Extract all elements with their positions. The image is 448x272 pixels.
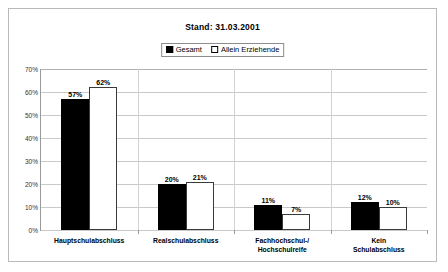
y-axis-tick-label: 0% bbox=[29, 227, 38, 234]
bar-value-label: 12% bbox=[358, 194, 372, 201]
plot-area: 0%10%20%30%40%50%60%70%57%62%Hauptschula… bbox=[40, 69, 427, 231]
y-axis-tick-label: 20% bbox=[25, 181, 38, 188]
legend-label-allein-erziehende: Allein Erziehende bbox=[221, 45, 279, 54]
legend-swatch-filled-icon bbox=[166, 46, 173, 53]
bar-value-label: 20% bbox=[165, 176, 179, 183]
y-axis-tick-label: 40% bbox=[25, 135, 38, 142]
bar-allein-erziehende: 21% bbox=[186, 182, 214, 230]
bar-value-label: 57% bbox=[68, 91, 82, 98]
bar-allein-erziehende: 7% bbox=[282, 214, 310, 230]
y-axis-tick-label: 70% bbox=[25, 66, 38, 73]
x-axis-category-label: Realschulabschluss bbox=[153, 236, 218, 245]
bar-gesamt: 20% bbox=[158, 184, 186, 230]
x-axis-category-label: Kein Schulabschluss bbox=[353, 236, 405, 254]
bar-value-label: 7% bbox=[291, 206, 301, 213]
x-axis-tick bbox=[138, 230, 139, 234]
bar-gesamt: 57% bbox=[61, 99, 89, 230]
chart-frame: Stand: 31.03.2001 Gesamt Allein Erziehen… bbox=[8, 8, 437, 262]
bar-value-label: 21% bbox=[193, 174, 207, 181]
x-axis-category-label: Fachhochschul-/ Hochschulreife bbox=[255, 236, 309, 254]
chart-legend: Gesamt Allein Erziehende bbox=[161, 43, 285, 57]
y-axis-tick-label: 60% bbox=[25, 89, 38, 96]
legend-item-allein-erziehende: Allein Erziehende bbox=[211, 45, 279, 54]
chart-title: Stand: 31.03.2001 bbox=[9, 22, 436, 32]
legend-label-gesamt: Gesamt bbox=[176, 45, 202, 54]
legend-swatch-hollow-icon bbox=[211, 46, 218, 53]
legend-item-gesamt: Gesamt bbox=[166, 45, 202, 54]
y-axis-tick-label: 30% bbox=[25, 158, 38, 165]
bar-allein-erziehende: 62% bbox=[89, 87, 117, 230]
bar-gesamt: 11% bbox=[254, 205, 282, 230]
bar-value-label: 62% bbox=[96, 79, 110, 86]
x-axis-tick bbox=[331, 230, 332, 234]
y-axis-tick-label: 50% bbox=[25, 112, 38, 119]
x-axis-tick bbox=[234, 230, 235, 234]
category-separator bbox=[331, 69, 332, 230]
y-axis-tick-label: 10% bbox=[25, 204, 38, 211]
category-separator bbox=[138, 69, 139, 230]
bar-gesamt: 12% bbox=[351, 202, 379, 230]
x-axis-category-label: Hauptschulabschluss bbox=[54, 236, 124, 245]
bar-value-label: 11% bbox=[261, 197, 275, 204]
bar-value-label: 10% bbox=[386, 199, 400, 206]
category-separator bbox=[234, 69, 235, 230]
bar-allein-erziehende: 10% bbox=[379, 207, 407, 230]
x-axis-tick bbox=[427, 230, 428, 234]
